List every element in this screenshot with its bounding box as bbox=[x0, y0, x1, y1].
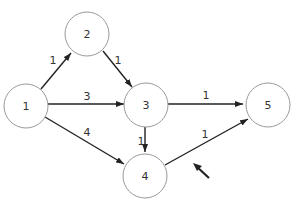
weight-2-3: 1 bbox=[115, 54, 122, 67]
node-label-2: 2 bbox=[84, 28, 91, 41]
weight-3-5: 1 bbox=[203, 89, 210, 102]
node-label-4: 4 bbox=[142, 170, 149, 183]
graph-diagram: 1 2 3 4 5 1 1 3 4 1 1 1 bbox=[0, 0, 291, 202]
node-label-3: 3 bbox=[143, 99, 150, 112]
weight-1-4: 4 bbox=[84, 126, 91, 139]
weight-1-3: 3 bbox=[84, 90, 91, 103]
weight-4-5: 1 bbox=[202, 128, 209, 141]
weight-3-4: 1 bbox=[138, 135, 145, 148]
pointer-arrow-icon bbox=[193, 163, 209, 178]
weight-1-2: 1 bbox=[50, 54, 57, 67]
edge-1-4 bbox=[45, 117, 124, 164]
node-label-5: 5 bbox=[265, 99, 272, 112]
node-label-1: 1 bbox=[23, 100, 30, 113]
edge-4-5 bbox=[165, 119, 248, 165]
